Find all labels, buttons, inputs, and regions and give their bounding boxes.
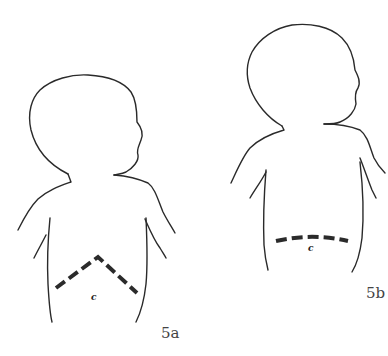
figure-5a-label: 5a	[161, 324, 180, 342]
illustration-canvas	[0, 0, 388, 356]
figure-5b-right-neck-shoulder	[324, 124, 385, 173]
figure-5a-incision-mark: c	[91, 292, 96, 302]
figure-5a-left-torso	[48, 218, 52, 322]
figure-5a-right-arm	[145, 219, 166, 258]
figure-5b-left-arm	[250, 172, 266, 198]
figure-5a-chevron-incision	[56, 257, 137, 293]
figure-5b-incision-mark: c	[308, 243, 313, 253]
figure-5a-left-arm	[34, 235, 46, 258]
figure-5b-left-torso	[264, 170, 268, 270]
figure-5b-transverse-incision	[276, 237, 348, 241]
figure-5a-head	[30, 75, 143, 175]
figure-5a-left-neck-shoulder	[18, 174, 71, 230]
figure-5b-head	[247, 24, 359, 126]
figure-5a-right-torso	[136, 218, 147, 322]
figure-5b-infant-outline	[231, 24, 385, 272]
figure-5b-left-neck-shoulder	[231, 126, 284, 183]
figure-5b-right-torso	[352, 162, 363, 272]
figure-5a-right-neck-shoulder	[114, 175, 175, 233]
figure-5a-infant-outline	[18, 75, 175, 322]
figure-5b-label: 5b	[366, 284, 385, 302]
